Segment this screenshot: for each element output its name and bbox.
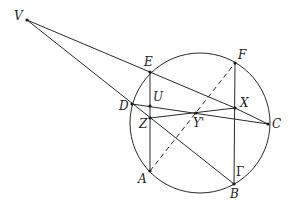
point-label-b: B: [229, 187, 239, 201]
geometry-diagram: VEFDUXZY'CAB Γ: [0, 0, 295, 210]
points-group: [25, 18, 269, 185]
point-label-v: V: [14, 9, 24, 23]
point-label-c: C: [272, 117, 281, 131]
point-e: [148, 70, 151, 73]
point-label-x: X: [239, 96, 249, 110]
point-u: [148, 104, 151, 107]
segment-f-b: [234, 63, 235, 184]
point-d: [130, 102, 133, 105]
segment-v-x: [27, 20, 235, 108]
circle-label: Γ: [236, 165, 244, 179]
point-label-z: Z: [138, 117, 148, 131]
segment-v-b: [27, 20, 234, 184]
point-label-y-prime: Y': [193, 116, 204, 130]
point-z: [148, 116, 151, 119]
point-label-u: U: [153, 90, 164, 104]
point-label-f: F: [237, 48, 247, 62]
point-c: [266, 122, 269, 125]
point-x: [233, 106, 236, 109]
point-a: [148, 169, 151, 172]
point-label-d: D: [118, 99, 129, 113]
point-b: [232, 182, 235, 185]
point-label-e: E: [143, 55, 153, 69]
point-v: [25, 18, 28, 21]
segments-group: [27, 20, 268, 184]
point-label-a: A: [137, 172, 147, 186]
point-y-prime: [194, 111, 197, 114]
point-f: [233, 61, 236, 64]
